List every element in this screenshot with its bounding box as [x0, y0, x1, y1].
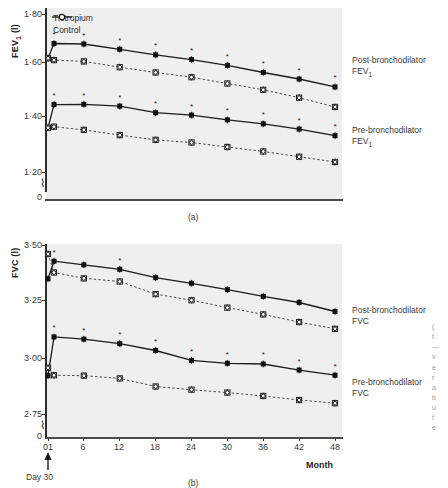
significance-star: * — [226, 106, 229, 115]
data-point — [297, 299, 302, 306]
data-point — [225, 304, 230, 311]
significance-star: * — [118, 36, 121, 45]
data-point — [225, 144, 230, 151]
data-point — [46, 372, 51, 379]
edge-caption-line-6: r — [432, 373, 448, 383]
data-point — [153, 136, 158, 143]
annotation-pre-bd-fev1-line1: Pre-bronchodilator — [352, 125, 422, 135]
significance-star: * — [298, 357, 301, 366]
data-point — [261, 293, 266, 300]
data-point — [117, 64, 122, 71]
data-point — [153, 69, 158, 76]
data-point: * — [51, 30, 56, 47]
data-point — [297, 153, 302, 160]
data-point: * — [333, 122, 338, 139]
data-point: * — [225, 52, 230, 69]
data-point — [81, 275, 86, 282]
data-point — [51, 269, 56, 276]
edge-caption-line-3: — — [432, 342, 448, 352]
data-point: * — [153, 99, 158, 116]
data-point — [225, 389, 230, 396]
edge-caption-line-4: v — [432, 352, 448, 362]
significance-star: * — [262, 59, 265, 68]
edge-caption-line-9: u — [432, 403, 448, 413]
data-point: * — [117, 330, 122, 347]
annotation-pre-bd-fvc-line2: FVC — [352, 388, 369, 398]
annotation-post-bd-fev1-line1: Post-bronchodilator — [352, 55, 426, 65]
significance-star: * — [154, 41, 157, 50]
data-point — [81, 126, 86, 133]
data-point — [261, 393, 266, 400]
series-layer-b: *********** — [0, 230, 448, 486]
data-point: * — [225, 106, 230, 123]
significance-star: * — [298, 116, 301, 125]
data-point — [45, 364, 50, 371]
significance-star: * — [333, 73, 336, 82]
data-point — [46, 275, 51, 282]
data-point — [51, 372, 56, 379]
significance-star: * — [226, 52, 229, 61]
annotation-post-bd-fvc-line2: FVC — [352, 316, 369, 326]
data-point: * — [153, 41, 158, 58]
data-point: * — [51, 248, 56, 265]
data-point — [45, 55, 50, 62]
data-point: * — [189, 102, 194, 119]
data-point — [81, 58, 86, 65]
data-point: * — [189, 347, 194, 364]
data-point — [297, 319, 302, 326]
significance-star: * — [52, 91, 55, 100]
edge-caption-line-1: ( — [432, 322, 448, 332]
data-point — [261, 86, 266, 93]
annotation-pre-bd-fvc: Pre-bronchodilator FVC — [352, 377, 422, 400]
data-point — [189, 139, 194, 146]
data-point — [297, 397, 302, 404]
data-point — [45, 251, 50, 258]
data-point — [332, 159, 337, 166]
data-point: * — [261, 59, 266, 76]
data-point — [51, 57, 56, 64]
data-point: * — [51, 91, 56, 108]
significance-star: * — [82, 91, 85, 100]
significance-star: * — [118, 330, 121, 339]
edge-caption-line-10: t — [432, 413, 448, 423]
significance-star: * — [52, 248, 55, 257]
significance-star: * — [262, 110, 265, 119]
data-point: * — [297, 357, 302, 374]
data-point — [81, 372, 86, 379]
data-point — [225, 80, 230, 87]
data-point — [332, 325, 337, 332]
data-point — [261, 148, 266, 155]
data-point: * — [51, 323, 56, 340]
data-point — [332, 400, 337, 407]
edge-caption-line-2: t — [432, 332, 448, 342]
significance-star: * — [333, 362, 336, 371]
data-point — [117, 375, 122, 382]
significance-star: * — [190, 46, 193, 55]
significance-star: * — [82, 326, 85, 335]
data-point: * — [81, 91, 86, 108]
data-point — [189, 74, 194, 81]
data-point: * — [189, 46, 194, 63]
edge-caption-fragment: ( t — v e r a b u t e — [432, 322, 448, 434]
data-point: * — [333, 362, 338, 379]
data-point: * — [117, 93, 122, 110]
data-point: * — [117, 36, 122, 53]
data-point — [51, 123, 56, 130]
significance-star: * — [333, 122, 336, 131]
significance-star: * — [298, 66, 301, 75]
significance-star: * — [52, 30, 55, 39]
edge-caption-line-5: e — [432, 363, 448, 373]
data-point: * — [297, 66, 302, 83]
significance-star: * — [154, 99, 157, 108]
panel-fev1: FEV1 (l) 1·80 1·60 1·40 1·20 0 ⌇ (a) Tio… — [0, 0, 448, 243]
significance-star: * — [52, 323, 55, 332]
data-point — [81, 261, 86, 268]
edge-caption-line-11: e — [432, 423, 448, 433]
data-point: * — [81, 31, 86, 48]
annotation-pre-bd-fev1: Pre-bronchodilator FEV1 — [352, 125, 422, 150]
data-point: * — [225, 350, 230, 367]
data-point: * — [117, 256, 122, 273]
data-point — [297, 94, 302, 101]
data-point — [117, 278, 122, 285]
data-point — [189, 386, 194, 393]
